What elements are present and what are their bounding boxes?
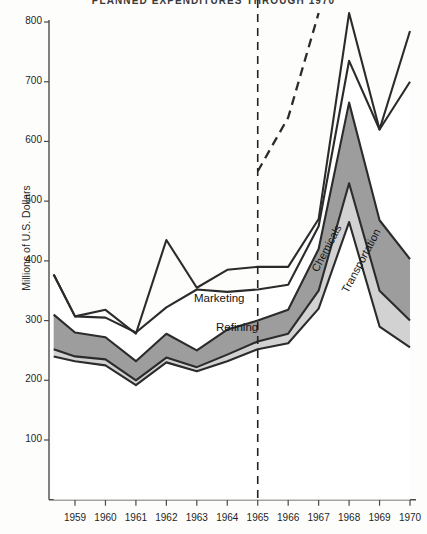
- annotation-refining: Refining: [216, 321, 258, 333]
- chart-container: PLANNED EXPENDITURES THROUGH 1970 Millio…: [0, 0, 427, 534]
- total-line-planned: [258, 13, 319, 171]
- annotation-marketing: Marketing: [194, 292, 245, 304]
